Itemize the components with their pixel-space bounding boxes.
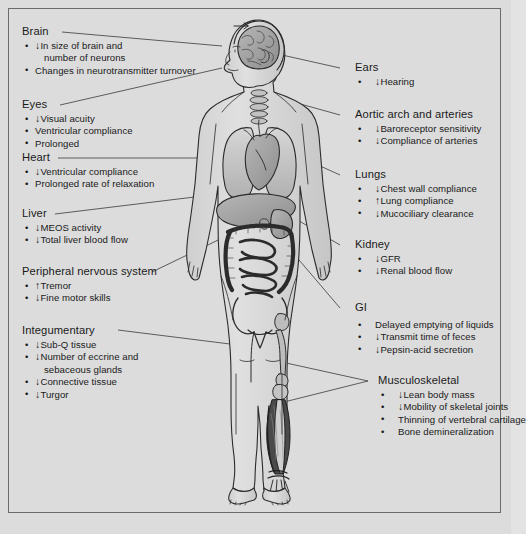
list-item-text: Transmit time of feces [380, 331, 475, 342]
list-item: ↓Lean body mass [378, 389, 526, 401]
list-item-text: Lean body mass [403, 389, 474, 400]
label-block-ears: Ears ↓Hearing [355, 61, 414, 88]
list-item-text: Visual acuity [40, 113, 94, 124]
label-block-gi: GI Delayed emptying of liquids ↓Transmit… [355, 301, 494, 356]
list-item: Ventricular compliance [22, 125, 133, 137]
label-heading-heart: Heart [22, 151, 154, 164]
list-item-text: Ventricular compliance [40, 166, 138, 177]
label-heading-ears: Ears [355, 61, 414, 74]
list-item: ↓Hearing [355, 76, 414, 88]
label-heading-integumentary: Integumentary [22, 324, 139, 337]
list-item-text: Chest wall compliance [380, 183, 477, 194]
label-items-peripheral-nervous-system: ↑Tremor ↓Fine motor skills [22, 280, 157, 305]
list-item: ↓Mucociliary clearance [355, 208, 477, 220]
list-item: ↓Visual acuity [22, 113, 133, 125]
list-item: Prolonged rate of relaxation [22, 178, 154, 190]
list-item: ↓Mobility of skeletal joints [378, 401, 526, 413]
label-items-liver: ↓MEOS activity ↓Total liver blood flow [22, 222, 128, 247]
label-heading-gi: GI [355, 301, 494, 314]
list-item: ↓Ventricular compliance [22, 166, 154, 178]
label-items-brain: ↓In size of brain and number of neurons … [22, 40, 196, 77]
list-item: ↓Renal blood flow [355, 265, 452, 277]
list-item: Thinning of vertebral cartilage [378, 414, 526, 426]
list-item: ↑Tremor [22, 280, 157, 292]
label-heading-eyes: Eyes [22, 98, 133, 111]
list-item: ↓Connective tissue [22, 376, 139, 388]
list-item-text: Bone demineralization [398, 426, 494, 437]
label-items-ears: ↓Hearing [355, 76, 414, 88]
list-item-text: In size of brain and [40, 40, 122, 51]
label-items-gi: Delayed emptying of liquids ↓Transmit ti… [355, 319, 494, 356]
list-item: number of neurons [22, 52, 196, 64]
list-item: ↓Fine motor skills [22, 292, 157, 304]
brain [238, 26, 279, 69]
label-items-eyes: ↓Visual acuity Ventricular compliance Pr… [22, 113, 133, 150]
list-item-text: Mobility of skeletal joints [403, 401, 508, 412]
list-item-text: Thinning of vertebral cartilage [398, 414, 526, 425]
list-item: ↓Baroreceptor sensitivity [355, 123, 481, 135]
list-item: ↓Number of eccrine and [22, 351, 139, 363]
label-heading-musculoskeletal: Musculoskeletal [378, 374, 526, 387]
list-item: ↓Compliance of arteries [355, 135, 481, 147]
list-item-text: Hearing [380, 76, 414, 87]
list-item-text: GFR [380, 253, 400, 264]
list-item-text: sebaceous glands [44, 364, 122, 375]
list-item: ↓Sub-Q tissue [22, 339, 139, 351]
spine [250, 90, 268, 124]
list-item-text: Turgor [40, 389, 68, 400]
label-block-aortic-arch-and-arteries: Aortic arch and arteries ↓Baroreceptor s… [355, 108, 481, 148]
list-item: ↑Lung compliance [355, 195, 477, 207]
list-item-text: Baroreceptor sensitivity [380, 123, 481, 134]
list-item: ↓Total liver blood flow [22, 234, 128, 246]
label-heading-liver: Liver [22, 207, 128, 220]
list-item-text: Delayed emptying of liquids [375, 319, 494, 330]
label-items-integumentary: ↓Sub-Q tissue ↓Number of eccrine and seb… [22, 339, 139, 401]
human-body-figure [178, 14, 338, 506]
list-item-text: number of neurons [44, 52, 125, 63]
list-item-text: Renal blood flow [380, 265, 452, 276]
label-block-integumentary: Integumentary ↓Sub-Q tissue ↓Number of e… [22, 324, 139, 401]
patella [273, 384, 288, 399]
label-block-kidney: Kidney ↓GFR ↓Renal blood flow [355, 238, 452, 278]
list-item-text: Mucociliary clearance [380, 208, 473, 219]
label-items-aortic-arch-and-arteries: ↓Baroreceptor sensitivity ↓Compliance of… [355, 123, 481, 148]
list-item-text: Number of eccrine and [40, 351, 138, 362]
list-item-text: Lung compliance [380, 195, 453, 206]
list-item-text: Changes in neurotransmitter turnover [35, 65, 196, 76]
label-items-musculoskeletal: ↓Lean body mass ↓Mobility of skeletal jo… [378, 389, 526, 439]
femur-head [275, 313, 289, 330]
list-item-text: Prolonged rate of relaxation [35, 178, 154, 189]
label-block-eyes: Eyes ↓Visual acuity Ventricular complian… [22, 98, 133, 150]
label-items-lungs: ↓Chest wall compliance ↑Lung compliance … [355, 183, 477, 220]
label-heading-brain: Brain [22, 25, 196, 38]
label-heading-lungs: Lungs [355, 168, 477, 181]
list-item: ↓Transmit time of feces [355, 331, 494, 343]
list-item: Changes in neurotransmitter turnover [22, 65, 196, 77]
label-block-brain: Brain ↓In size of brain and number of ne… [22, 25, 196, 77]
list-item: ↓GFR [355, 253, 452, 265]
list-item-text: MEOS activity [40, 222, 101, 233]
list-item-text: Connective tissue [40, 376, 117, 387]
list-item-text: Total liver blood flow [40, 234, 128, 245]
label-block-liver: Liver ↓MEOS activity ↓Total liver blood … [22, 207, 128, 247]
label-block-heart: Heart ↓Ventricular compliance Prolonged … [22, 151, 154, 191]
label-heading-aortic-arch-and-arteries: Aortic arch and arteries [355, 108, 481, 121]
list-item: ↓MEOS activity [22, 222, 128, 234]
list-item: Prolonged [22, 138, 133, 150]
list-item: ↓Turgor [22, 389, 139, 401]
label-block-peripheral-nervous-system: Peripheral nervous system ↑Tremor ↓Fine … [22, 265, 157, 305]
list-item-text: Tremor [40, 280, 71, 291]
list-item-text: Compliance of arteries [380, 135, 477, 146]
list-item-text: Prolonged [35, 138, 79, 149]
list-item: ↓Chest wall compliance [355, 183, 477, 195]
list-item: ↓In size of brain and [22, 40, 196, 52]
list-item-text: Fine motor skills [40, 292, 110, 303]
list-item-text: Sub-Q tissue [40, 339, 96, 350]
list-item: ↓Pepsin-acid secretion [355, 344, 494, 356]
label-block-lungs: Lungs ↓Chest wall compliance ↑Lung compl… [355, 168, 477, 220]
list-item: sebaceous glands [22, 364, 139, 376]
list-item: Bone demineralization [378, 426, 526, 438]
label-items-heart: ↓Ventricular compliance Prolonged rate o… [22, 166, 154, 191]
list-item-text: Pepsin-acid secretion [380, 344, 473, 355]
